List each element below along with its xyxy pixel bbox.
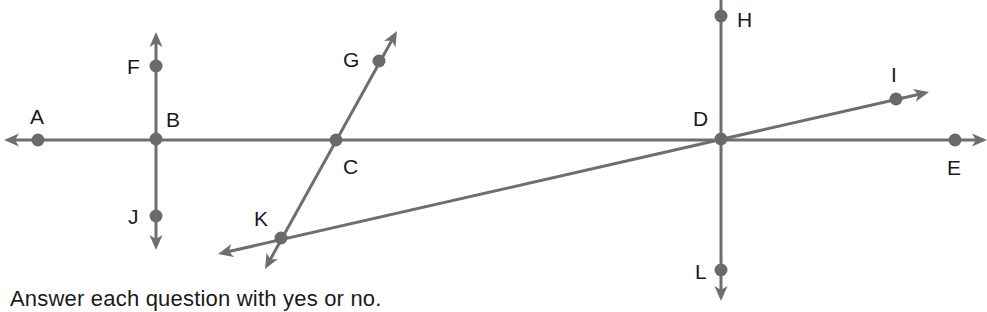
point-h [715,10,728,23]
point-k [275,232,288,245]
point-label-k: K [254,207,268,230]
point-label-i: I [891,63,897,86]
point-label-j: J [128,205,139,228]
point-label-e: E [947,156,961,179]
point-label-b: B [166,108,180,131]
point-label-l: L [695,260,707,283]
point-b [150,133,163,146]
point-label-g: G [343,48,359,71]
point-label-h: H [737,8,752,31]
point-i [890,93,903,106]
lines-layer [4,0,987,301]
line-KI [218,89,929,257]
point-label-c: C [343,155,358,178]
point-l [715,264,728,277]
line-HL [715,0,728,301]
point-label-d: D [693,107,708,130]
point-c [330,134,343,147]
point-e [949,134,962,147]
labels-layer: ABCDEFGHIJKL [30,8,961,283]
line-KI-segment [228,94,919,252]
point-g [373,55,386,68]
points-layer [32,10,962,277]
point-f [150,60,163,73]
point-a [32,134,45,147]
point-d [715,133,728,146]
instruction-text: Answer each question with yes or no. [10,286,382,312]
point-label-f: F [127,55,140,78]
point-label-a: A [30,105,44,128]
point-j [150,210,163,223]
